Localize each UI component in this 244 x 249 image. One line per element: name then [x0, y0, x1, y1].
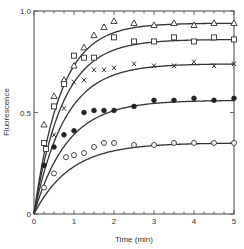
fit-curve [34, 143, 234, 214]
filled-circle-marker [232, 96, 237, 101]
open-circle-marker [72, 153, 77, 158]
fit-curve [34, 23, 234, 214]
cross-marker [82, 78, 86, 83]
triangle-marker [91, 32, 97, 38]
y-axis-title: Fluorescence [2, 87, 11, 136]
square-marker [62, 82, 67, 87]
filled-circle-marker [152, 98, 157, 103]
triangle-marker [191, 22, 197, 28]
triangle-marker [171, 20, 177, 26]
filled-circle-marker [52, 145, 57, 150]
open-circle-marker [212, 140, 217, 145]
fit-curves [34, 23, 234, 214]
cross-marker [102, 68, 106, 73]
triangle-marker [131, 20, 137, 26]
x-axis-title: Time (min) [115, 235, 153, 244]
triangle-marker [51, 93, 57, 99]
square-marker [132, 39, 137, 44]
open-circle-marker [192, 140, 197, 145]
open-circle-marker [64, 155, 69, 160]
filled-circle-marker [172, 98, 177, 103]
filled-circle-marker [102, 108, 107, 113]
triangle-marker [111, 18, 117, 24]
open-circle-marker [82, 151, 87, 156]
square-marker [52, 104, 57, 109]
square-marker [82, 55, 87, 60]
y-tick-label: 0 [27, 210, 32, 219]
open-circle-marker [152, 142, 157, 147]
square-marker [152, 39, 157, 44]
cross-marker [52, 133, 56, 138]
y-tick-label: 1.0 [20, 7, 32, 16]
x-tick-label: 4 [192, 217, 197, 226]
filled-circle-marker [82, 110, 87, 115]
open-circle-marker [102, 140, 107, 145]
cross-marker [112, 66, 116, 71]
fit-curve [34, 40, 234, 214]
filled-circle-marker [132, 104, 137, 109]
triangle-marker [211, 20, 217, 26]
square-marker [92, 55, 97, 60]
x-tick-label: 3 [152, 217, 157, 226]
square-marker [72, 53, 77, 58]
filled-circle-marker [42, 163, 47, 168]
open-circle-marker [232, 140, 237, 145]
open-circle-marker [172, 140, 177, 145]
x-tick-label: 1 [72, 217, 77, 226]
x-tick-label: 2 [112, 217, 117, 226]
open-circle-marker [112, 140, 117, 145]
triangle-marker [41, 121, 47, 127]
triangle-marker [81, 44, 87, 50]
square-marker [112, 35, 117, 40]
cross-marker [192, 59, 196, 64]
filled-circle-marker [112, 108, 117, 113]
filled-circle-marker [212, 98, 217, 103]
cross-marker [132, 61, 136, 66]
x-tick-label: 0 [32, 217, 37, 226]
square-marker [44, 147, 49, 152]
square-marker [42, 140, 47, 145]
triangle-marker [101, 24, 107, 30]
square-marker [232, 37, 237, 42]
cross-marker [92, 68, 96, 73]
filled-circle-marker [92, 108, 97, 113]
y-tick-label: 0.5 [20, 109, 32, 118]
open-circle-marker [42, 185, 47, 190]
filled-circle-marker [62, 133, 67, 138]
fluorescence-time-chart: 01234500.51.0 Time (min) Fluorescence [0, 0, 244, 249]
filled-circle-marker [72, 128, 77, 133]
x-tick-label: 5 [232, 217, 237, 226]
square-marker [212, 35, 217, 40]
open-circle-marker [52, 171, 57, 176]
filled-circle-marker [192, 96, 197, 101]
cross-marker [62, 106, 66, 111]
cross-marker [72, 80, 76, 85]
square-marker [192, 39, 197, 44]
open-circle-marker [132, 142, 137, 147]
open-circle-marker [92, 145, 97, 150]
square-marker [172, 35, 177, 40]
